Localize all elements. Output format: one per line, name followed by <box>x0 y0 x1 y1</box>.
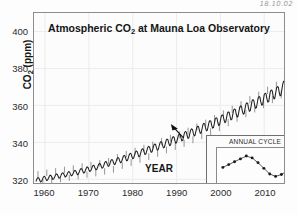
x-tick-2000: 2000 <box>201 187 241 198</box>
x-tick-1960: 1960 <box>24 187 64 198</box>
x-tick-1990: 1990 <box>157 187 197 198</box>
co2-chart-figure: 18.10.02 <box>0 0 297 215</box>
x-tick-1980: 1980 <box>113 187 153 198</box>
chart-title-post: at Mauna Loa Observatory <box>135 22 270 34</box>
main-plot-area: Atmospheric CO2 at Mauna Loa Observatory… <box>33 12 285 184</box>
x-tick-1970: 1970 <box>68 187 108 198</box>
y-tick-380: 380 <box>0 63 28 74</box>
inset-title: ANNUAL CYCLE <box>207 138 285 145</box>
chart-title: Atmospheric CO2 at Mauna Loa Observatory <box>34 22 284 36</box>
corner-date-annotation: 18.10.02 <box>259 0 293 8</box>
y-tick-340: 340 <box>0 137 28 148</box>
x-axis-label: YEAR <box>33 163 285 174</box>
y-axis-label-pre: CO <box>22 74 33 89</box>
y-tick-400: 400 <box>0 25 28 36</box>
y-tick-360: 360 <box>0 100 28 111</box>
y-tick-320: 320 <box>0 175 28 186</box>
chart-title-pre: Atmospheric CO <box>48 22 131 34</box>
x-tick-2010: 2010 <box>245 187 285 198</box>
inset-leader-line <box>171 124 183 138</box>
annual-cycle-inset: ANNUAL CYCLE <box>206 135 285 184</box>
